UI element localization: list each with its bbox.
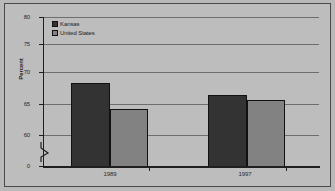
bar-united-states-1989 [110, 109, 148, 167]
y-tick-label-0: 0 [10, 163, 30, 169]
legend: Kansas United States [50, 18, 98, 40]
y-tick-label-75: 75 [10, 41, 30, 47]
x-tick-mark-1989 [149, 168, 150, 171]
y-tick-mark-65 [39, 104, 44, 105]
y-tick-mark-80 [39, 17, 44, 18]
axis-break-icon [38, 141, 51, 163]
legend-item-united-states: United States [52, 29, 95, 37]
y-tick-mark-0 [39, 166, 44, 167]
gridline-70 [44, 72, 319, 73]
bar-kansas-1989 [71, 83, 110, 167]
x-tick-label-1997: 1997 [225, 171, 265, 177]
x-axis-line [43, 166, 320, 168]
y-tick-label-65: 65 [10, 101, 30, 107]
y-tick-mark-60 [39, 135, 44, 136]
y-tick-label-80: 80 [10, 14, 30, 20]
y-axis-title: Percent [18, 49, 24, 89]
bar-united-states-1997 [247, 100, 285, 167]
legend-label-united-states: United States [60, 30, 95, 37]
y-tick-mark-75 [39, 44, 44, 45]
x-tick-label-1989: 1989 [90, 171, 130, 177]
legend-label-kansas: Kansas [60, 21, 79, 28]
legend-swatch-kansas [52, 21, 58, 27]
y-tick-mark-70 [39, 72, 44, 73]
legend-item-kansas: Kansas [52, 20, 95, 28]
chart-frame: 80 75 70 65 60 0 Percent 1989 1997 Kansa… [4, 3, 331, 187]
bar-kansas-1997 [208, 95, 247, 167]
y-tick-label-60: 60 [10, 132, 30, 138]
x-tick-mark-1997 [286, 168, 287, 171]
legend-swatch-united-states [52, 30, 58, 36]
gridline-75 [44, 44, 319, 45]
